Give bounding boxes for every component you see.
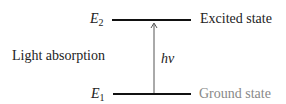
ground-state-label: Ground state xyxy=(199,86,271,102)
e1-label: E1 xyxy=(91,86,105,104)
photon-energy-label: hν xyxy=(161,51,174,67)
ground-level-line xyxy=(113,93,191,95)
